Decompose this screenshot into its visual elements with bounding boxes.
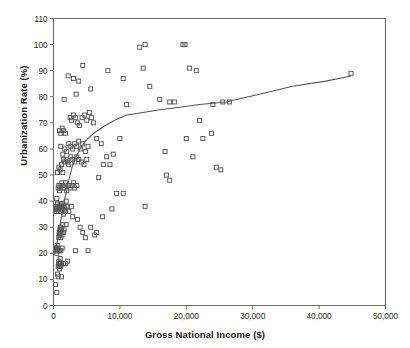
svg-text:60: 60 xyxy=(38,145,48,154)
svg-text:20: 20 xyxy=(38,249,48,258)
svg-text:40,000: 40,000 xyxy=(307,312,332,321)
svg-text:80: 80 xyxy=(38,93,48,102)
x-axis-ticks: 010,00020,00030,00040,00050,000 xyxy=(51,306,398,321)
svg-text:100: 100 xyxy=(34,41,48,50)
svg-text:20,000: 20,000 xyxy=(174,312,199,321)
svg-text:50,000: 50,000 xyxy=(373,312,398,321)
svg-text:10,000: 10,000 xyxy=(107,312,132,321)
trend-line xyxy=(55,76,351,253)
svg-text:110: 110 xyxy=(34,15,47,24)
svg-text:30: 30 xyxy=(38,223,48,232)
svg-text:30,000: 30,000 xyxy=(240,312,265,321)
svg-text:70: 70 xyxy=(38,119,48,128)
data-point-markers xyxy=(53,43,352,295)
scatter-chart: 010,00020,00030,00040,00050,000 01020304… xyxy=(0,0,410,348)
svg-text:50: 50 xyxy=(38,171,48,180)
y-axis-title: Urbanization Rate (%) xyxy=(18,41,29,191)
svg-text:40: 40 xyxy=(38,197,48,206)
plot-area-svg: 010,00020,00030,00040,00050,000 01020304… xyxy=(0,0,410,348)
y-axis-ticks: 0102030405060708090100110 xyxy=(34,15,54,311)
svg-text:0: 0 xyxy=(43,302,48,311)
svg-text:90: 90 xyxy=(38,67,48,76)
axis-frame xyxy=(54,19,386,306)
x-axis-title: Gross National Income ($) xyxy=(0,329,410,340)
svg-text:10: 10 xyxy=(38,275,48,284)
svg-text:0: 0 xyxy=(51,312,56,321)
